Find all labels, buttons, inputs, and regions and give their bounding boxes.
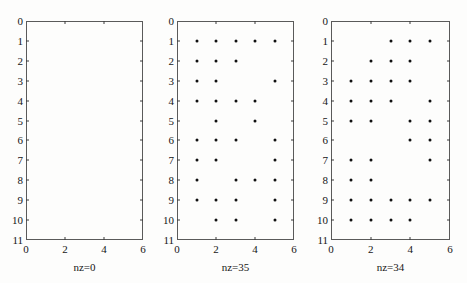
data-point	[429, 39, 432, 42]
y-tick-mark	[447, 100, 450, 101]
y-tick-label: 0	[309, 16, 328, 27]
data-point	[369, 59, 372, 62]
data-point	[349, 199, 352, 202]
y-tick-mark	[331, 160, 334, 161]
spy-plot-figure: 012345678910110246nz=0012345678910110246…	[0, 0, 467, 283]
x-tick-label: 2	[368, 244, 374, 255]
data-point	[349, 179, 352, 182]
y-tick-mark	[447, 60, 450, 61]
y-tick-mark	[331, 200, 334, 201]
data-point	[409, 139, 412, 142]
y-tick-label: 6	[309, 135, 328, 146]
data-point	[349, 79, 352, 82]
y-tick-mark	[447, 160, 450, 161]
y-tick-label: 7	[309, 155, 328, 166]
y-tick-label: 1	[309, 35, 328, 46]
y-tick-mark	[331, 100, 334, 101]
y-tick-mark	[447, 40, 450, 41]
y-tick-mark	[331, 60, 334, 61]
data-point	[369, 179, 372, 182]
y-tick-label: 2	[309, 55, 328, 66]
data-point	[409, 219, 412, 222]
x-tick-mark	[410, 21, 411, 24]
data-point	[369, 79, 372, 82]
data-point	[389, 59, 392, 62]
y-tick-label: 11	[309, 235, 328, 246]
y-tick-mark	[331, 180, 334, 181]
data-point	[409, 119, 412, 122]
y-tick-label: 4	[309, 95, 328, 106]
y-tick-label: 8	[309, 175, 328, 186]
data-point	[429, 139, 432, 142]
y-tick-mark	[331, 220, 334, 221]
y-tick-mark	[447, 120, 450, 121]
data-point	[389, 219, 392, 222]
data-point	[429, 159, 432, 162]
data-point	[349, 99, 352, 102]
y-tick-mark	[447, 200, 450, 201]
x-tick-mark	[370, 237, 371, 240]
y-tick-mark	[447, 220, 450, 221]
y-tick-label: 3	[309, 75, 328, 86]
data-point	[389, 39, 392, 42]
data-point	[409, 79, 412, 82]
y-tick-mark	[447, 180, 450, 181]
data-point	[409, 199, 412, 202]
data-point	[429, 99, 432, 102]
data-point	[369, 219, 372, 222]
data-point	[429, 199, 432, 202]
data-point	[369, 119, 372, 122]
y-tick-label: 10	[309, 215, 328, 226]
data-point	[389, 79, 392, 82]
data-point	[349, 119, 352, 122]
y-tick-mark	[447, 140, 450, 141]
y-tick-mark	[331, 120, 334, 121]
data-point	[369, 199, 372, 202]
y-tick-label: 5	[309, 115, 328, 126]
y-tick-mark	[331, 40, 334, 41]
y-tick-mark	[447, 80, 450, 81]
spy-panel-3: 012345678910110246nz=34	[0, 0, 467, 283]
data-point	[349, 159, 352, 162]
data-point	[389, 199, 392, 202]
data-point	[389, 99, 392, 102]
data-point	[369, 99, 372, 102]
data-point	[429, 119, 432, 122]
x-tick-mark	[370, 21, 371, 24]
x-tick-mark	[410, 237, 411, 240]
y-tick-mark	[331, 80, 334, 81]
data-point	[409, 39, 412, 42]
data-point	[349, 219, 352, 222]
x-tick-label: 4	[408, 244, 414, 255]
nz-caption: nz=34	[377, 261, 405, 273]
y-tick-mark	[331, 140, 334, 141]
plot-area	[331, 21, 450, 240]
data-point	[369, 159, 372, 162]
x-tick-label: 6	[447, 244, 453, 255]
x-tick-label: 0	[328, 244, 334, 255]
y-tick-label: 9	[309, 195, 328, 206]
data-point	[409, 59, 412, 62]
